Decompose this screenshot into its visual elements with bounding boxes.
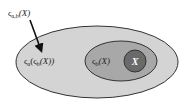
middle-set-label: ςb(X) [92,56,110,67]
inner-set-label: X [131,56,139,67]
top-label: ςa,b(X) [8,8,30,19]
nested-set-diagram: ςa,b(X) ςa(ςb(X)) ςb(X) X [0,0,185,105]
